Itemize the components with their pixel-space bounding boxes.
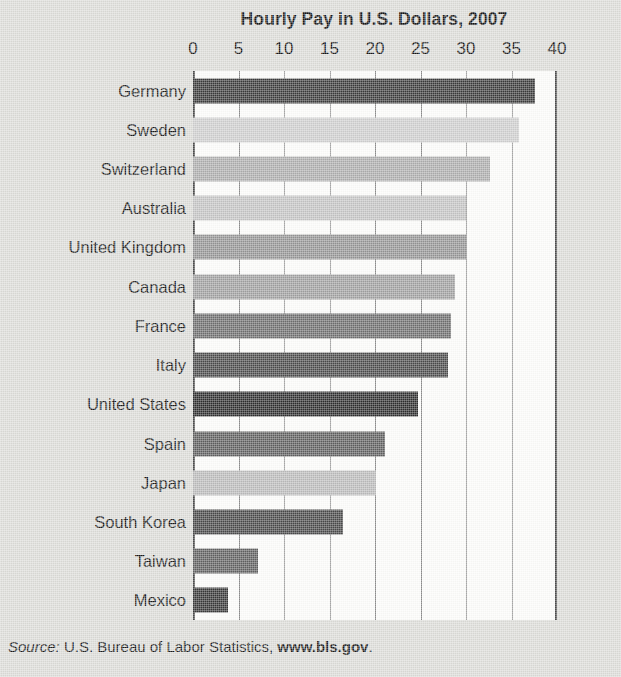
category-label-germany: Germany (0, 81, 186, 100)
category-label-switzerland: Switzerland (0, 160, 186, 179)
source-suffix: . (368, 638, 372, 655)
source-text: U.S. Bureau of Labor Statistics, (64, 638, 273, 655)
category-label-united-states: United States (0, 395, 186, 414)
x-tick-label-30: 30 (457, 39, 476, 59)
bar-sweden (193, 117, 519, 142)
bar-italy (193, 353, 448, 378)
bar-row (193, 306, 555, 345)
x-tick-label-20: 20 (366, 39, 385, 59)
bar-canada (193, 274, 455, 299)
category-label-south-korea: South Korea (0, 512, 186, 531)
bar-chart-figure: Hourly Pay in U.S. Dollars, 2007 0510152… (0, 0, 621, 677)
bar-germany (193, 78, 535, 103)
bar-row (193, 424, 555, 463)
bar-series (193, 71, 555, 620)
category-label-taiwan: Taiwan (0, 552, 186, 571)
bar-united-states (193, 392, 418, 417)
chart-title: Hourly Pay in U.S. Dollars, 2007 (190, 9, 558, 30)
bar-row (193, 542, 555, 581)
x-tick-label-40: 40 (548, 39, 567, 59)
category-label-spain: Spain (0, 434, 186, 453)
category-label-sweden: Sweden (0, 120, 186, 139)
bar-row (193, 581, 555, 620)
x-tick-label-10: 10 (275, 39, 294, 59)
bar-mexico (193, 588, 228, 613)
bar-france (193, 313, 451, 338)
x-tick-label-0: 0 (188, 39, 197, 59)
source-prefix: Source: (8, 638, 60, 655)
x-tick-label-15: 15 (320, 39, 339, 59)
x-tick-label-5: 5 (234, 39, 243, 59)
source-note: Source: U.S. Bureau of Labor Statistics,… (8, 638, 373, 655)
category-label-australia: Australia (0, 199, 186, 218)
bar-japan (193, 470, 376, 495)
bar-united-kingdom (193, 235, 466, 260)
bar-row (193, 189, 555, 228)
category-label-mexico: Mexico (0, 591, 186, 610)
bar-row (193, 110, 555, 149)
bar-spain (193, 431, 385, 456)
x-tick-label-25: 25 (411, 39, 430, 59)
bar-row (193, 149, 555, 188)
bar-row (193, 267, 555, 306)
bar-row (193, 463, 555, 502)
bar-row (193, 346, 555, 385)
x-tick-label-35: 35 (502, 39, 521, 59)
bar-row (193, 385, 555, 424)
bar-row (193, 502, 555, 541)
x-axis-tick-labels: 0510152025303540 (0, 39, 621, 65)
category-label-france: France (0, 316, 186, 335)
bar-south-korea (193, 509, 343, 534)
category-axis-labels: GermanySwedenSwitzerlandAustraliaUnited … (0, 71, 186, 620)
category-label-canada: Canada (0, 277, 186, 296)
category-label-italy: Italy (0, 356, 186, 375)
source-url: www.bls.gov (277, 638, 368, 655)
bar-taiwan (193, 549, 258, 574)
category-label-united-kingdom: United Kingdom (0, 238, 186, 257)
plot-area (193, 71, 557, 620)
bar-row (193, 228, 555, 267)
bar-switzerland (193, 157, 490, 182)
bar-row (193, 71, 555, 110)
category-label-japan: Japan (0, 473, 186, 492)
bar-australia (193, 196, 466, 221)
